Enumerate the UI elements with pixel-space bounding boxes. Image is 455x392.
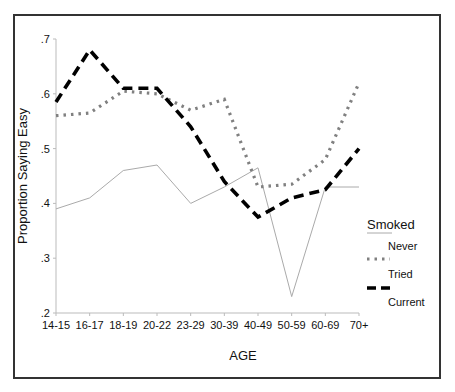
x-tick-label: 14-15 [42,319,70,331]
axes: .2.3.4.5.6.714-1516-1718-1920-2223-2930-… [41,33,369,331]
y-tick-label: .7 [41,33,50,45]
x-tick-label: 16-17 [76,319,104,331]
legend-label-never: Never [388,240,418,252]
series-never-line [56,165,359,297]
x-tick-label: 40-49 [244,319,272,331]
x-tick-label: 70+ [350,319,369,331]
series-current-line [56,50,359,217]
y-tick-label: .5 [41,143,50,155]
x-tick-label: 18-19 [109,319,137,331]
x-tick-label: 50-59 [278,319,306,331]
x-axis-title: AGE [229,348,257,363]
series-lines [56,50,359,297]
x-tick-label: 23-29 [177,319,205,331]
legend: Smoked NeverTriedCurrent [367,217,425,308]
legend-label-current: Current [388,296,425,308]
legend-label-tried: Tried [388,268,413,280]
legend-title: Smoked [367,217,415,232]
y-tick-label: .4 [41,197,50,209]
x-tick-label: 30-39 [210,319,238,331]
y-tick-label: .3 [41,252,50,264]
series-tried-line [56,83,359,187]
line-chart: .2.3.4.5.6.714-1516-1718-1920-2223-2930-… [0,0,455,392]
y-tick-label: .2 [41,307,50,319]
x-tick-label: 20-22 [143,319,171,331]
y-axis-title: Proportion Saying Easy [15,108,30,244]
x-tick-label: 60-69 [311,319,339,331]
y-tick-label: .6 [41,88,50,100]
